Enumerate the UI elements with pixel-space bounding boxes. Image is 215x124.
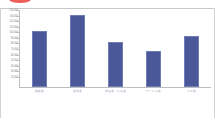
y-axis-tickmark (16, 49, 19, 50)
x-axis-category-labels: 建設業製造業卸売業・小売業サービス業その他 (20, 88, 211, 96)
y-axis-tickmark (16, 77, 19, 78)
bar-slot (135, 9, 173, 87)
x-axis-category-label: サービス業 (135, 88, 173, 96)
x-axis-category-label: 卸売業・小売業 (96, 88, 134, 96)
x-axis-category-label: その他 (173, 88, 211, 96)
red-highlight-oval-icon (9, 0, 31, 3)
y-axis-tickmark (16, 43, 19, 44)
y-axis-tickmark (16, 71, 19, 72)
y-axis-tickmark (16, 16, 19, 17)
y-axis-tickmark (16, 60, 19, 61)
bar-slot (58, 9, 96, 87)
bar (70, 15, 85, 87)
bar-series (20, 9, 211, 87)
y-axis-tickmark (16, 32, 19, 33)
y-axis-tickmark (16, 66, 19, 67)
y-axis-tickmark (16, 55, 19, 56)
bar-slot (173, 9, 211, 87)
bar (108, 42, 123, 87)
bar (146, 51, 161, 87)
bar-slot (20, 9, 58, 87)
x-axis-category-label: 製造業 (58, 88, 96, 96)
bar-slot (96, 9, 134, 87)
chart-screenshot: 140,000130,000120,000110,000100,00090,00… (0, 0, 215, 124)
y-axis-tickmark (16, 10, 19, 11)
chart-plot-area: 140,000130,000120,000110,000100,00090,00… (0, 9, 215, 91)
y-axis-tickmark (16, 38, 19, 39)
bar (32, 31, 47, 87)
bar (184, 36, 199, 87)
x-axis-category-label: 建設業 (20, 88, 58, 96)
y-axis-tickmark (16, 21, 19, 22)
y-axis-tickmark (16, 27, 19, 28)
